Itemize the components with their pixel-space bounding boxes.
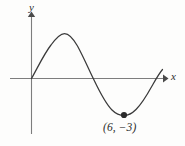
sine-curve [32,34,163,116]
x-axis-label: x [171,71,176,82]
minimum-point-label: (6, −3) [103,122,136,134]
graph-canvas [0,0,185,146]
y-axis-label: y [29,2,34,13]
minimum-point-marker [121,112,127,118]
x-axis-arrowhead [163,75,169,83]
graph-figure: y x (6, −3) [0,0,185,146]
